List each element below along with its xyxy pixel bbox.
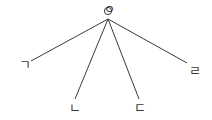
leaf-node-label-nieun: ㄴ xyxy=(69,101,81,114)
edge-root-to-giyeok xyxy=(31,19,108,61)
diagram-canvas: ㅇ ㄱ ㄴ ㄷ ㄹ xyxy=(0,0,212,120)
diagram-lines-group xyxy=(0,0,212,120)
leaf-node-label-rieul: ㄹ xyxy=(189,64,201,77)
leaf-node-label-digeut: ㄷ xyxy=(134,101,146,114)
edge-root-to-nieun xyxy=(75,19,108,99)
edge-root-to-rieul xyxy=(108,19,187,63)
edge-root-to-digeut xyxy=(108,19,139,99)
root-node-label: ㅇ xyxy=(104,4,115,17)
leaf-node-label-giyeok: ㄱ xyxy=(19,58,31,71)
